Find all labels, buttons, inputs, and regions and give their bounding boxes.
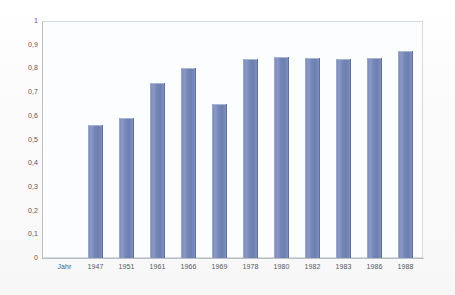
- bar-slot: [111, 21, 142, 258]
- y-axis-tick-label: 0,7: [4, 88, 38, 96]
- bar-top-highlight: [151, 83, 164, 84]
- bar[interactable]: [181, 68, 196, 258]
- y-axis-tick-label: 0,3: [4, 183, 38, 191]
- bar-slot: [359, 21, 390, 258]
- bar-top-highlight: [306, 58, 319, 59]
- y-axis-tick-label: 0,6: [4, 112, 38, 120]
- x-axis-labels: Jahr194719511961196619691978198019821983…: [42, 262, 423, 278]
- bar-top-highlight: [337, 59, 350, 60]
- bar-top-highlight: [275, 57, 288, 58]
- bar-top-highlight: [182, 68, 195, 69]
- bar-top-highlight: [368, 58, 381, 59]
- bar[interactable]: [243, 59, 258, 258]
- bar-slot: [142, 21, 173, 258]
- bar-slot: [328, 21, 359, 258]
- bar[interactable]: [398, 51, 413, 258]
- bar[interactable]: [367, 58, 382, 258]
- bar[interactable]: [212, 104, 227, 258]
- y-axis-tick-label: 0,2: [4, 207, 38, 215]
- bar[interactable]: [88, 125, 103, 258]
- bar-top-highlight: [399, 51, 412, 52]
- bar[interactable]: [119, 118, 134, 258]
- bar-slot: [204, 21, 235, 258]
- bar-slot: [235, 21, 266, 258]
- y-axis-tick-label: 1: [4, 17, 38, 25]
- bar[interactable]: [274, 57, 289, 258]
- bar-top-highlight: [89, 125, 102, 126]
- bar-slot: [390, 21, 421, 258]
- bar-top-highlight: [120, 118, 133, 119]
- bar[interactable]: [150, 83, 165, 258]
- y-axis-tick-label: 0,5: [4, 136, 38, 144]
- x-axis-tick-label: 1988: [387, 262, 425, 272]
- bar[interactable]: [305, 58, 320, 258]
- y-axis-labels: 10,90,80,70,60,50,40,30,20,10: [0, 0, 38, 295]
- bar[interactable]: [336, 59, 351, 258]
- y-axis-tick-label: 0,8: [4, 64, 38, 72]
- bar-slot: [80, 21, 111, 258]
- bar-top-highlight: [244, 59, 257, 60]
- bar-slot: [173, 21, 204, 258]
- bar-slot: [266, 21, 297, 258]
- y-axis-tick-label: 0: [4, 254, 38, 262]
- x-axis-line: [42, 258, 424, 259]
- bar-top-highlight: [213, 104, 226, 105]
- bars-layer: [42, 21, 423, 258]
- bar-chart-figure: 10,90,80,70,60,50,40,30,20,10 Jahr194719…: [0, 0, 455, 295]
- y-axis-tick-label: 0,9: [4, 41, 38, 49]
- y-axis-tick-label: 0,4: [4, 159, 38, 167]
- bar-slot: [297, 21, 328, 258]
- y-axis-tick-label: 0,1: [4, 230, 38, 238]
